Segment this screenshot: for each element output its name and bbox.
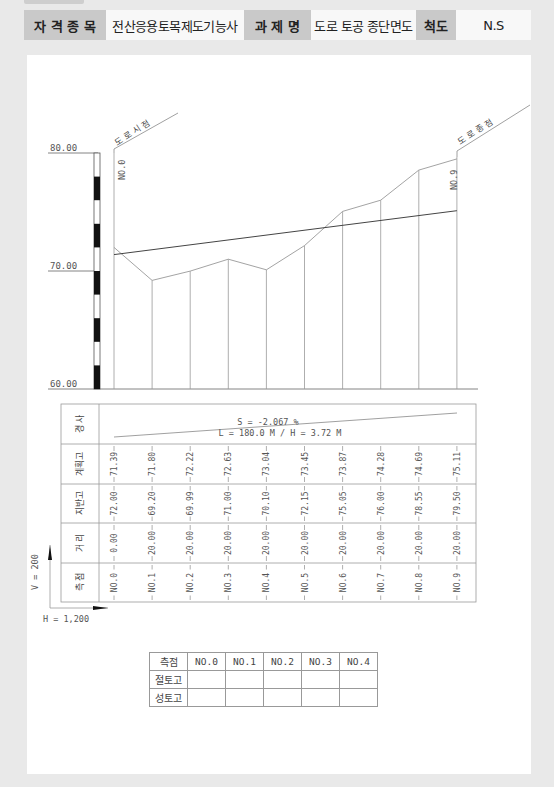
table-row-label: 측 점 (74, 573, 85, 592)
summary-header-station: 측점 (150, 653, 188, 671)
cut-height-label: 절토고 (150, 671, 188, 689)
table-cell-planned: 72.22 (186, 452, 195, 476)
table-cell-ground: 72.15 (301, 491, 310, 515)
table-cell-ground: 71.00 (224, 491, 233, 515)
table-cell-distance: 20.00 (339, 531, 348, 555)
table-cell-ground: 76.00 (377, 491, 386, 515)
h-scale-label: H = 1,200 (43, 614, 89, 624)
elev-label-70: 70.00 (50, 261, 77, 271)
elev-label-80: 80.00 (50, 143, 77, 153)
design-grade-line (114, 211, 457, 255)
table-cell-stations: NO.1 (148, 573, 157, 592)
v-scale-arrow-icon (48, 545, 52, 560)
elevation-axis (48, 153, 478, 389)
fill-height-cell[interactable] (264, 689, 302, 707)
table-cell-distance: 20.00 (377, 531, 386, 555)
summary-header-cell: NO.0 (188, 653, 226, 671)
summary-header-row: 측점 NO.0 NO.1 NO.2 NO.3 NO.4 (150, 653, 378, 671)
table-cell-distance: 0.00 (110, 533, 119, 552)
elev-label-60: 60.00 (50, 379, 77, 389)
v-scale-label: V = 200 (30, 554, 40, 590)
table-cell-distance: 20.00 (148, 531, 157, 555)
cut-height-cell[interactable] (188, 671, 226, 689)
summary-header-cell: NO.3 (302, 653, 340, 671)
table-cell-planned: 73.87 (339, 452, 348, 476)
slope-text: S = -2.067 % (237, 417, 298, 427)
table-cell-distance: 20.00 (453, 531, 462, 555)
cut-height-cell[interactable] (226, 671, 264, 689)
fill-height-cell[interactable] (226, 689, 264, 707)
table-row-label: 경 사 (74, 414, 85, 434)
table-cell-stations: NO.2 (186, 573, 195, 592)
table-cell-stations: NO.3 (224, 573, 233, 592)
cut-height-cell[interactable] (302, 671, 340, 689)
table-cell-stations: NO.6 (339, 573, 348, 592)
ruler-segment (94, 271, 100, 295)
end-point-label: 도 로 종 점 (456, 116, 495, 146)
table-cell-ground: 79.50 (453, 491, 462, 515)
table-cell-ground: 72.00 (110, 491, 119, 515)
table-cell-ground: 70.10 (262, 491, 271, 515)
table-cell-ground: 69.20 (148, 491, 157, 515)
table-cell-planned: 73.04 (262, 452, 271, 476)
fill-height-cell[interactable] (302, 689, 340, 707)
summary-row-cut: 절토고 (150, 671, 378, 689)
cut-height-cell[interactable] (340, 671, 378, 689)
start-point-label: 도 로 시 점 (113, 117, 152, 147)
vertical-scale-ruler (94, 153, 100, 389)
h-scale-arrow-icon (93, 606, 108, 610)
ruler-segment (94, 224, 100, 248)
table-cell-ground: 78.55 (415, 491, 424, 515)
table-cell-planned: 73.45 (301, 452, 310, 476)
table-row-label: 계획고 (74, 452, 85, 476)
table-cell-ground: 69.99 (186, 491, 195, 515)
table-cell-planned: 74.69 (415, 452, 424, 476)
cut-fill-summary-table: 측점 NO.0 NO.1 NO.2 NO.3 NO.4 절토고 성토고 (149, 652, 378, 707)
summary-header-cell: NO.2 (264, 653, 302, 671)
table-row-label: 지반고 (75, 491, 85, 515)
table-cell-stations: NO.0 (110, 573, 119, 592)
table-cell-ground: 75.05 (339, 491, 348, 515)
fill-height-label: 성토고 (150, 689, 188, 707)
table-cell-stations: NO.8 (415, 573, 424, 592)
table-cell-stations: NO.7 (377, 573, 386, 592)
table-cell-planned: 72.63 (224, 452, 233, 476)
last-station-label: NO.9 (449, 170, 459, 190)
length-height-text: L = 180.0 M / H = 3.72 M (219, 428, 342, 438)
ground-profile-line (114, 159, 457, 281)
table-cell-planned: 71.80 (148, 452, 157, 476)
table-cell-distance: 20.00 (415, 531, 424, 555)
table-cell-stations: NO.5 (301, 573, 310, 592)
table-cell-stations: NO.9 (453, 573, 462, 592)
table-cell-distance: 20.00 (224, 531, 233, 555)
station-lines (114, 153, 457, 389)
table-row-label: 거 리 (75, 534, 85, 553)
ruler-segment (94, 365, 100, 389)
summary-row-fill: 성토고 (150, 689, 378, 707)
table-row-labels: 경 사계획고지반고거 리측 점 (74, 414, 85, 592)
cut-height-cell[interactable] (264, 671, 302, 689)
first-station-label: NO.0 (117, 160, 127, 180)
table-cell-distance: 20.00 (301, 531, 310, 555)
fill-height-cell[interactable] (188, 689, 226, 707)
ruler-segment (94, 318, 100, 342)
table-cell-planned: 75.11 (453, 452, 462, 476)
ruler-segment (94, 177, 100, 201)
summary-header-cell: NO.1 (226, 653, 264, 671)
table-cell-stations: NO.4 (262, 573, 271, 592)
table-cell-distance: 20.00 (262, 531, 271, 555)
table-cell-planned: 71.39 (110, 452, 119, 476)
fill-height-cell[interactable] (340, 689, 378, 707)
table-cell-planned: 74.28 (377, 452, 386, 476)
summary-header-cell: NO.4 (340, 653, 378, 671)
table-cell-distance: 20.00 (186, 531, 195, 555)
